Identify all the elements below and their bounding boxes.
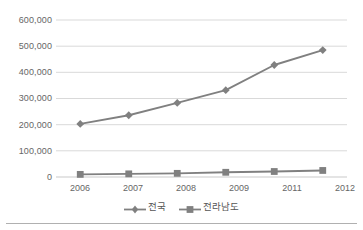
xtick-label-2008: 2008 [164, 183, 208, 193]
xtick-label-2006: 2006 [58, 183, 102, 193]
chart-legend: 전국 전라남도 [0, 199, 363, 213]
ytick-label-100000: 100,000 [0, 146, 52, 156]
xtick-label-2009: 2009 [217, 183, 261, 193]
xtick-label-2007: 2007 [111, 183, 155, 193]
data-point-marker[interactable] [319, 167, 326, 174]
ytick-label-0: 0 [0, 172, 52, 182]
data-point-marker[interactable] [76, 120, 84, 128]
ytick-label-500000: 500,000 [0, 41, 52, 51]
legend-label-jeonguk: 전국 [148, 199, 166, 213]
data-point-marker[interactable] [125, 170, 132, 177]
data-point-marker[interactable] [270, 61, 278, 69]
data-point-marker[interactable] [271, 168, 278, 175]
legend-entry-jeollanamdo[interactable]: 전라남도 [179, 199, 239, 213]
ytick-label-400000: 400,000 [0, 67, 52, 77]
xtick-label-2011: 2011 [270, 183, 314, 193]
series-line-1 [80, 170, 323, 174]
data-point-marker[interactable] [222, 169, 229, 176]
data-point-marker[interactable] [173, 99, 181, 107]
series-line-0 [80, 50, 323, 124]
data-point-marker[interactable] [125, 111, 133, 119]
xtick-label-2012: 2012 [323, 183, 363, 193]
figure-bottom-border [6, 223, 357, 224]
plot-area [0, 0, 363, 230]
legend-entry-jeonguk[interactable]: 전국 [124, 199, 166, 213]
data-point-marker[interactable] [222, 86, 230, 94]
ytick-label-600000: 600,000 [0, 15, 52, 25]
ytick-label-200000: 200,000 [0, 120, 52, 130]
gridlines [56, 20, 347, 177]
legend-label-jeollanamdo: 전라남도 [203, 199, 239, 213]
data-point-marker[interactable] [77, 171, 84, 178]
chart-container: 600,000 500,000 400,000 300,000 200,000 … [0, 0, 363, 230]
square-marker-icon [179, 201, 201, 212]
series-layer [76, 46, 326, 178]
diamond-marker-icon [124, 201, 146, 212]
ytick-label-300000: 300,000 [0, 93, 52, 103]
data-point-marker[interactable] [319, 46, 327, 54]
data-point-marker[interactable] [174, 170, 181, 177]
